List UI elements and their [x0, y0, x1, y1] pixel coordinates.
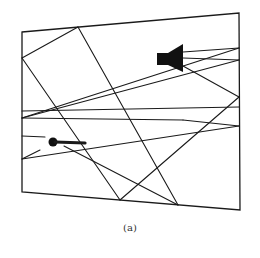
ray-segment: [22, 136, 45, 137]
figure-caption: (a): [0, 222, 260, 233]
sound-rays: [22, 27, 239, 205]
ray-segment: [183, 66, 239, 97]
loudspeaker-icon: [157, 44, 183, 72]
ray-segment: [183, 58, 239, 60]
ray-segment: [22, 118, 183, 120]
ray-segment: [22, 58, 120, 200]
ray-segment: [183, 48, 239, 52]
room-ray-diagram: [0, 0, 260, 258]
microphone-icon: [49, 138, 86, 147]
